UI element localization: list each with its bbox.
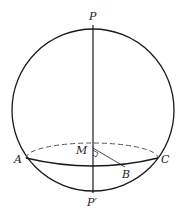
label-C: C: [161, 153, 170, 166]
circle-back-dashed: [26, 143, 158, 158]
label-A: A: [13, 153, 22, 166]
right-angle-marker: [93, 150, 98, 157]
sphere-diagram: P P′ M A B C: [0, 0, 179, 212]
segment-MB: [93, 148, 125, 167]
label-B: B: [121, 168, 130, 181]
label-P: P: [88, 10, 97, 23]
circle-front-solid: [26, 158, 158, 166]
label-M: M: [75, 144, 88, 157]
label-P-prime: P′: [86, 196, 97, 209]
